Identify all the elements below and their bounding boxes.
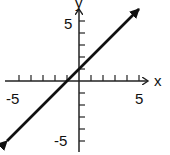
x-pos-label: 5 bbox=[135, 90, 143, 107]
plotted-line bbox=[7, 9, 139, 141]
x-axis-label: x bbox=[154, 72, 162, 89]
y-axis-label: y bbox=[75, 0, 83, 11]
y-neg-label: -5 bbox=[54, 132, 67, 149]
x-neg-label: -5 bbox=[6, 90, 19, 107]
graph-svg: x y -5 5 5 -5 bbox=[0, 0, 170, 155]
coordinate-graph: x y -5 5 5 -5 bbox=[0, 0, 170, 155]
y-pos-label: 5 bbox=[64, 15, 72, 32]
